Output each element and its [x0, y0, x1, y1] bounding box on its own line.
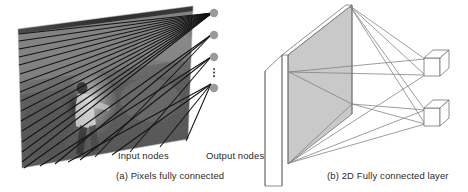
input-nodes-label: Input nodes — [118, 150, 169, 161]
output-node-1[interactable] — [210, 9, 218, 17]
input-image-plane — [0, 0, 234, 192]
output-nodes-ellipsis-icon — [213, 68, 215, 77]
output-node-3[interactable] — [210, 53, 218, 61]
panel-b-caption: (b) 2D Fully connected layer — [327, 170, 449, 181]
panel-a — [0, 0, 234, 192]
output-box-1[interactable] — [424, 50, 449, 76]
output-nodes-group — [210, 9, 218, 92]
figure-canvas — [0, 0, 468, 192]
panel-a-caption: (a) Pixels fully connected — [116, 170, 224, 181]
plane-back-face — [265, 55, 282, 186]
output-box-2[interactable] — [424, 100, 449, 126]
output-nodes-label: Output nodes — [206, 150, 264, 161]
panel-b — [265, 5, 449, 186]
output-node-2[interactable] — [210, 31, 218, 39]
output-node-n[interactable] — [210, 84, 218, 92]
